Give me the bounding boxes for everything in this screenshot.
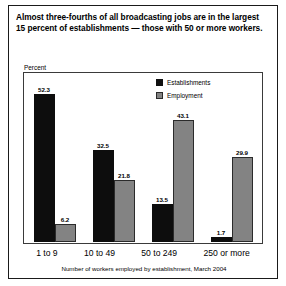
bar-wrap-establishments-2: 32.5 xyxy=(93,72,114,242)
bar-value-establishments-1: 52.3 xyxy=(38,86,50,93)
bar-wrap-employment-3: 43.1 xyxy=(173,72,194,242)
bar-wrap-employment-4: 29.9 xyxy=(232,72,253,242)
chart-footnote: Number of workers employed by establishm… xyxy=(9,265,279,272)
bar-wrap-employment-1: 6.2 xyxy=(55,72,76,242)
y-axis-unit-label: Percent xyxy=(24,64,46,71)
bar-group-50-to-249: 13.5 43.1 xyxy=(152,72,194,242)
bar-wrap-establishments-4: 1.7 xyxy=(211,72,232,242)
bar-value-establishments-4: 1.7 xyxy=(217,229,226,236)
bar-group-1-to-9: 52.3 6.2 xyxy=(34,72,76,242)
bar-employment-3 xyxy=(173,120,194,242)
x-axis-labels: 1 to 9 10 to 49 50 to 249 250 or more xyxy=(23,248,263,258)
bar-value-establishments-2: 32.5 xyxy=(97,142,109,149)
bar-value-employment-1: 6.2 xyxy=(61,216,70,223)
bar-group-10-to-49: 32.5 21.8 xyxy=(93,72,135,242)
bar-wrap-establishments-3: 13.5 xyxy=(152,72,173,242)
bar-wrap-employment-2: 21.8 xyxy=(114,72,135,242)
x-axis-label-3: 50 to 249 xyxy=(141,248,177,258)
bar-employment-1 xyxy=(55,224,76,242)
x-axis-label-4: 250 or more xyxy=(203,248,249,258)
bar-establishments-1 xyxy=(34,94,55,242)
bar-value-employment-2: 21.8 xyxy=(118,172,130,179)
bar-establishments-3 xyxy=(152,204,173,242)
chart-title: Almost three-fourths of all broadcasting… xyxy=(16,12,270,33)
bar-group-250-or-more: 1.7 29.9 xyxy=(211,72,253,242)
x-axis-label-1: 1 to 9 xyxy=(36,248,58,258)
bar-establishments-2 xyxy=(93,150,114,242)
bar-employment-4 xyxy=(232,157,253,242)
figure-container: Almost three-fourths of all broadcasting… xyxy=(8,5,278,279)
bar-wrap-establishments-1: 52.3 xyxy=(34,72,55,242)
bar-value-establishments-3: 13.5 xyxy=(156,196,168,203)
x-axis-label-2: 10 to 49 xyxy=(84,248,115,258)
bar-establishments-4 xyxy=(211,237,232,242)
bar-value-employment-3: 43.1 xyxy=(177,112,189,119)
bar-groups: 52.3 6.2 32.5 21.8 xyxy=(25,72,261,242)
bar-employment-2 xyxy=(114,180,135,242)
bar-value-employment-4: 29.9 xyxy=(236,149,248,156)
plot-area: Establishments Employment 52.3 6.2 xyxy=(23,72,263,244)
